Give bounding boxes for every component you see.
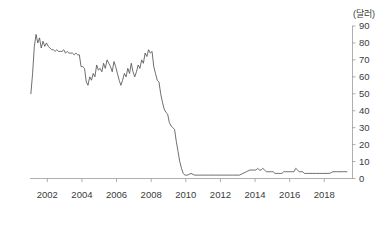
- x-axis-tick-label: 2014: [239, 189, 271, 200]
- x-axis-tick-label: 2018: [308, 189, 340, 200]
- y-axis-tick-label: 40: [359, 105, 370, 116]
- y-axis-tick-label: 10: [359, 156, 370, 167]
- y-axis-tick-label: 30: [359, 122, 370, 133]
- x-axis-tick-marks: [47, 179, 324, 183]
- y-axis-tick-label: 80: [359, 37, 370, 48]
- y-axis-tick-label: 50: [359, 88, 370, 99]
- price-series-line: [31, 34, 347, 175]
- x-axis-tick-label: 2006: [101, 189, 133, 200]
- x-axis-tick-label: 2016: [274, 189, 306, 200]
- y-axis-unit-label: (달러): [353, 7, 375, 20]
- y-axis-tick-label: 0: [359, 173, 364, 184]
- x-axis-tick-label: 2004: [66, 189, 98, 200]
- x-axis-tick-label: 2002: [31, 189, 63, 200]
- y-axis-tick-label: 70: [359, 54, 370, 65]
- x-axis-tick-label: 2008: [135, 189, 167, 200]
- y-axis-tick-label: 60: [359, 71, 370, 82]
- chart-container: (달러) 0102030405060708090 200220042006200…: [0, 0, 386, 230]
- x-axis-tick-label: 2010: [170, 189, 202, 200]
- x-axis-tick-label: 2012: [204, 189, 236, 200]
- y-axis-tick-label: 20: [359, 139, 370, 150]
- y-axis-tick-label: 90: [359, 20, 370, 31]
